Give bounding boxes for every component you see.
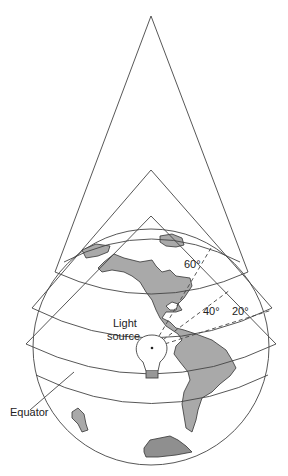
latitude-arc-60 [64, 239, 240, 262]
label-source: source [107, 330, 140, 342]
label-angle-40: 40° [203, 305, 220, 317]
label-light: Light [113, 317, 137, 329]
label-equator: Equator [10, 406, 49, 418]
land-antarctica [144, 436, 192, 457]
land-island-southwest [72, 408, 88, 432]
light-bulb-icon [136, 335, 167, 378]
cone-60-sides [55, 16, 248, 272]
conic-projection-diagram: Light source Equator 60° 40° 20° [0, 0, 288, 476]
label-angle-60: 60° [184, 258, 201, 270]
label-angle-20: 20° [232, 305, 249, 317]
equator-line [36, 375, 268, 404]
land-arctic-left [82, 244, 110, 258]
